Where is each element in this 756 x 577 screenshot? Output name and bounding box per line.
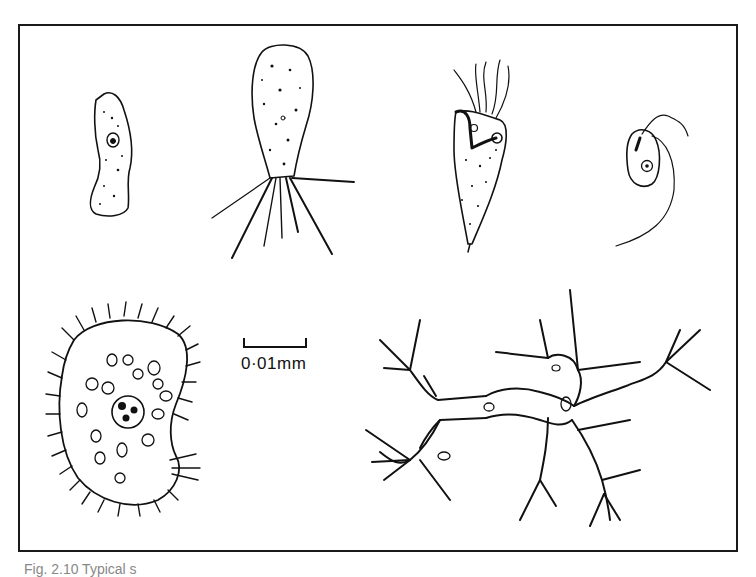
posterior-flagellate-drawing (212, 45, 354, 258)
biflagellate-drawing (616, 115, 688, 246)
plasmodium-drawing (366, 290, 710, 526)
figure-caption: Fig. 2.10 Typical s (24, 561, 137, 577)
scale-bar-label: 0·01mm (241, 354, 341, 374)
scale-bar: 0·01mm (241, 338, 341, 374)
scale-bar-line (243, 338, 307, 348)
ciliate-drawing (46, 302, 200, 516)
amoeboid-cell-drawing (91, 93, 132, 216)
trichomonad-drawing (454, 60, 509, 252)
